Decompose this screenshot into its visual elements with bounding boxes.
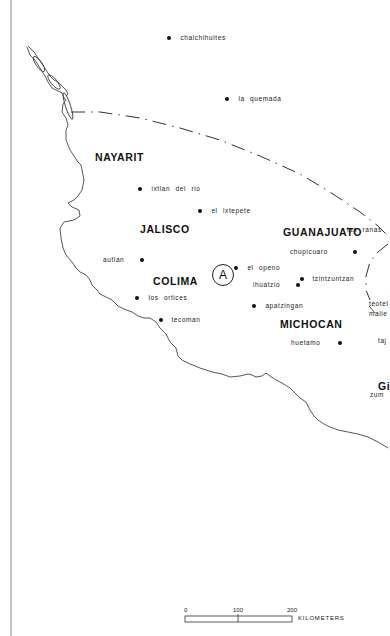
- site-malie: malie: [369, 310, 388, 318]
- site-ixtlan-del-rio: ixtlan del rio: [138, 185, 201, 193]
- site-dot-icon: [234, 266, 238, 270]
- site-teotel: teotel: [369, 300, 389, 308]
- site-taj: taj: [378, 337, 387, 345]
- site-chalchihuites: chalchihuites: [167, 34, 226, 42]
- site-dot-icon: [225, 97, 229, 101]
- site-dot-icon: [198, 209, 202, 213]
- site-dot-icon: [296, 283, 300, 287]
- site-dot-icon: [252, 304, 256, 308]
- site-chupicuaro: chupicuaro: [290, 248, 357, 256]
- site-dot-icon: [338, 341, 342, 345]
- frontier-boundary-south: [366, 244, 388, 300]
- site-zum: zum: [370, 391, 384, 399]
- site-la-quemada: la quemada: [225, 95, 281, 103]
- scale-bar: [185, 614, 292, 622]
- site-dot-icon: [138, 187, 142, 191]
- frontier-boundary: [71, 112, 388, 236]
- state-label-colima: COLIMA: [153, 275, 198, 287]
- site-dot-icon: [140, 258, 144, 262]
- lagoon-outline: [28, 46, 68, 96]
- site-las-ranas: las ranas: [347, 226, 382, 234]
- site-dot-icon: [353, 250, 357, 254]
- site-el-ixtepete: el ixtepete: [198, 207, 251, 215]
- scale-tick-100: 100: [233, 607, 243, 613]
- state-label-jalisco: JALISCO: [140, 223, 190, 235]
- site-los-ortices: los ortices: [135, 294, 187, 302]
- site-huetamo: huetamo: [291, 339, 342, 347]
- site-dot-icon: [167, 36, 171, 40]
- region-marker-a: A: [212, 264, 234, 286]
- site-apatzingan: apatzingan: [252, 302, 303, 310]
- site-tecoman: tecoman: [159, 316, 201, 324]
- site-dot-icon: [135, 296, 139, 300]
- site-autlan: autlan: [103, 256, 144, 264]
- site-el-openo: el openo: [234, 264, 280, 272]
- site-dot-icon: [159, 318, 163, 322]
- scale-tick-200: 200: [287, 607, 297, 613]
- site-tzintzuntzan: tzintzuntzan: [300, 275, 354, 283]
- scale-tick-0: 0: [184, 607, 187, 613]
- state-label-nayarit: NAYARIT: [95, 151, 144, 163]
- site-ihuatzio: ihuatzio: [253, 281, 300, 289]
- state-label-michocan: MICHOCAN: [280, 318, 343, 330]
- island-1: [31, 55, 46, 73]
- scale-unit-label: KILOMETERS: [298, 615, 345, 621]
- island-3: [61, 92, 74, 120]
- site-dot-icon: [300, 277, 304, 281]
